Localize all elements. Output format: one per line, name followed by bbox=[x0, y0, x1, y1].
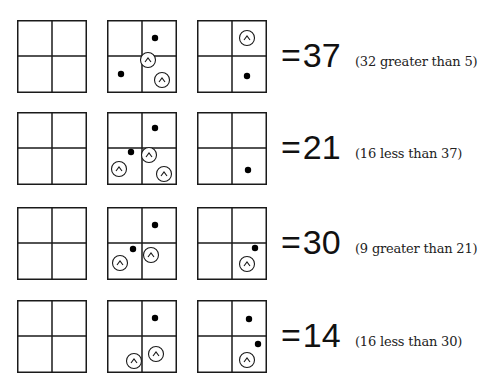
place-value-grid bbox=[197, 112, 267, 185]
place-value-grid bbox=[197, 20, 267, 93]
filled-dot-icon bbox=[128, 149, 134, 155]
place-value-grid bbox=[197, 300, 267, 373]
difference-note: (16 less than 37) bbox=[355, 146, 462, 162]
equation-row: =21(16 less than 37) bbox=[0, 112, 495, 192]
filled-dot-icon bbox=[252, 245, 258, 251]
filled-dot-icon bbox=[130, 246, 136, 252]
circled-caret-icon bbox=[127, 354, 142, 369]
place-value-grid bbox=[17, 20, 87, 93]
equation-row: =37(32 greater than 5) bbox=[0, 20, 495, 100]
result-value: 21 bbox=[303, 128, 341, 166]
filled-dot-icon bbox=[246, 316, 252, 322]
filled-dot-icon bbox=[245, 167, 251, 173]
filled-dot-icon bbox=[152, 315, 158, 321]
place-value-grid bbox=[107, 20, 177, 93]
circled-caret-icon bbox=[240, 31, 255, 46]
result-value: 37 bbox=[303, 36, 341, 74]
circled-caret-icon bbox=[149, 347, 164, 362]
place-value-grid bbox=[107, 112, 177, 185]
circled-caret-icon bbox=[155, 73, 170, 88]
difference-note: (32 greater than 5) bbox=[355, 54, 477, 70]
equation-row: =14(16 less than 30) bbox=[0, 300, 495, 380]
place-value-grid bbox=[17, 207, 87, 280]
equation-result: =14 bbox=[281, 315, 341, 355]
circled-caret-icon bbox=[142, 148, 157, 163]
difference-note: (9 greater than 21) bbox=[355, 241, 477, 257]
equation-result: =21 bbox=[281, 127, 341, 167]
equation-row: =30(9 greater than 21) bbox=[0, 207, 495, 287]
equals-sign: = bbox=[281, 35, 301, 75]
filled-dot-icon bbox=[152, 222, 158, 228]
difference-note: (16 less than 30) bbox=[355, 334, 462, 350]
place-value-grid bbox=[107, 300, 177, 373]
circled-caret-icon bbox=[240, 257, 255, 272]
filled-dot-icon bbox=[152, 35, 158, 41]
filled-dot-icon bbox=[118, 71, 124, 77]
circled-caret-icon bbox=[157, 167, 172, 182]
filled-dot-icon bbox=[244, 73, 250, 79]
circled-caret-icon bbox=[144, 248, 159, 263]
equals-sign: = bbox=[281, 222, 301, 262]
filled-dot-icon bbox=[255, 341, 261, 347]
equals-sign: = bbox=[281, 315, 301, 355]
place-value-grid bbox=[197, 207, 267, 280]
result-value: 14 bbox=[303, 316, 341, 354]
circled-caret-icon bbox=[141, 53, 156, 68]
result-value: 30 bbox=[303, 223, 341, 261]
equation-result: =30 bbox=[281, 222, 341, 262]
filled-dot-icon bbox=[152, 125, 158, 131]
place-value-grid bbox=[107, 207, 177, 280]
circled-caret-icon bbox=[112, 162, 127, 177]
equals-sign: = bbox=[281, 127, 301, 167]
equation-result: =37 bbox=[281, 35, 341, 75]
circled-caret-icon bbox=[113, 256, 128, 271]
place-value-grid bbox=[17, 112, 87, 185]
place-value-grid bbox=[17, 300, 87, 373]
circled-caret-icon bbox=[240, 353, 255, 368]
